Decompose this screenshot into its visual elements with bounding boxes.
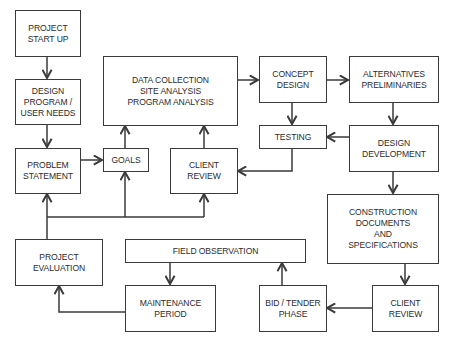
node-bid-tender-phase: BID / TENDER PHASE	[259, 285, 327, 332]
node-alternatives: ALTERNATIVES PRELIMINARIES	[349, 56, 439, 103]
node-construction-documents: CONSTRUCTION DOCUMENTS AND SPECIFICATION…	[327, 194, 439, 264]
node-testing: TESTING	[259, 125, 327, 149]
flowchart-canvas: PROJECT START UP DESIGN PROGRAM / USER N…	[0, 0, 452, 342]
node-client-review-mid: CLIENT REVIEW	[170, 148, 238, 194]
node-field-observation: FIELD OBSERVATION	[125, 239, 306, 263]
node-goals: GOALS	[103, 148, 149, 172]
node-design-development: DESIGN DEVELOPMENT	[349, 125, 439, 172]
edge-testing-to-review	[238, 148, 292, 171]
node-project-evaluation: PROJECT EVALUATION	[15, 239, 103, 286]
node-project-start-up: PROJECT START UP	[15, 10, 81, 57]
node-design-program: DESIGN PROGRAM / USER NEEDS	[15, 79, 81, 125]
node-maintenance-period: MAINTENANCE PERIOD	[125, 285, 216, 332]
node-client-review-bottom: CLIENT REVIEW	[372, 285, 439, 332]
node-concept-design: CONCEPT DESIGN	[259, 56, 327, 103]
edge-maintenance-to-evaluation	[59, 286, 125, 312]
node-data-collection: DATA COLLECTION SITE ANALYSIS PROGRAM AN…	[103, 56, 238, 126]
node-problem-statement: PROBLEM STATEMENT	[15, 148, 81, 194]
